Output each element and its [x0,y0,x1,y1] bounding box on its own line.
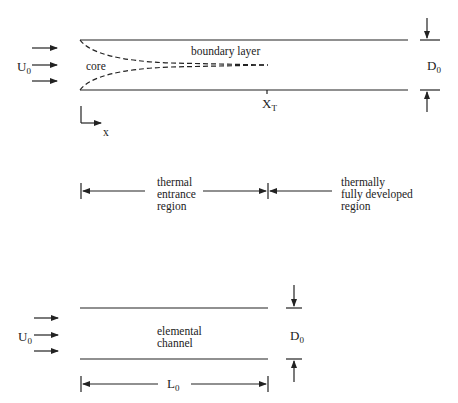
inlet-arrows-top [32,48,57,81]
core-label: core [86,60,106,72]
transition-label: XT [262,98,277,114]
diameter-label-bottom: D0 [290,330,304,346]
inlet-arrows-bottom [34,318,58,351]
x-axis-label: x [103,126,109,138]
diameter-label-top: D0 [427,60,441,76]
boundary-layer-lower [80,65,268,90]
boundary-layer-label: boundary layer [191,45,260,57]
channel-label: elemental channel [157,325,202,349]
entrance-region-label: thermal entrance region [157,176,196,212]
developed-region-label: thermally fully developed region [341,176,413,212]
length-label: L0 [167,378,179,394]
inlet-velocity-label: U0 [17,61,31,77]
inlet-velocity-label-bottom: U0 [18,331,32,347]
